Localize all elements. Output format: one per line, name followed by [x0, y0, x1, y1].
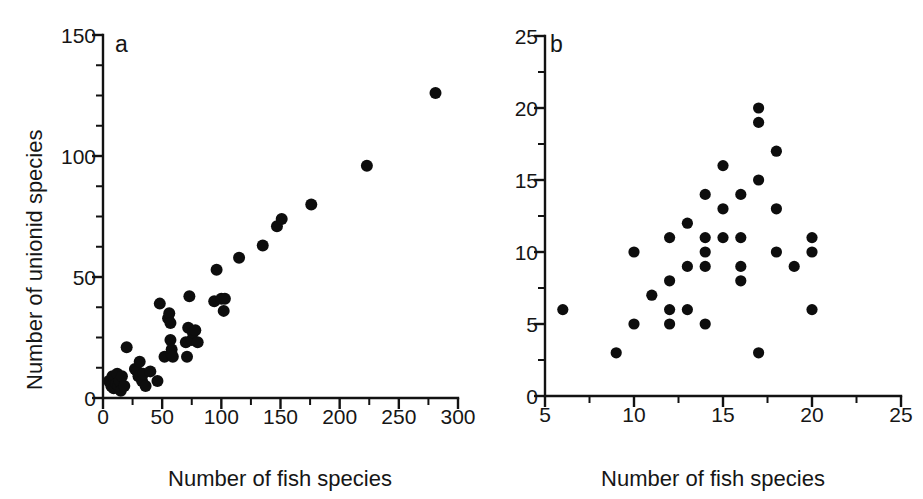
data-point	[735, 261, 746, 272]
data-point	[121, 341, 133, 353]
x-axis-tick-label: 200	[322, 406, 357, 427]
x-axis-tick-label: 250	[381, 406, 416, 427]
data-point	[305, 198, 317, 210]
figure-container: a Number of fish species Number of union…	[0, 0, 923, 499]
data-point	[717, 203, 728, 214]
data-point	[181, 351, 193, 363]
data-point	[430, 87, 442, 99]
data-point	[557, 304, 568, 315]
x-axis-tick-label: 50	[150, 406, 173, 427]
data-point	[218, 305, 230, 317]
scatter-panel-a: a Number of fish species Number of union…	[0, 0, 470, 499]
y-axis-tick-label: 15	[515, 170, 538, 191]
data-point	[806, 246, 817, 257]
y-axis-tick-label: 0	[84, 388, 96, 409]
x-axis-tick-label: 100	[204, 406, 239, 427]
panel-label-b: b	[550, 33, 563, 56]
y-axis-tick-label: 100	[61, 146, 96, 167]
x-axis-tick-label: 0	[97, 406, 109, 427]
data-point	[700, 232, 711, 243]
data-point	[735, 189, 746, 200]
y-axis-tick-label: 0	[526, 386, 538, 407]
data-point	[753, 117, 764, 128]
axis-spine	[545, 36, 901, 396]
data-point	[753, 174, 764, 185]
data-point	[753, 102, 764, 113]
data-point	[164, 317, 176, 329]
panel-a-y-axis-title: Number of unionid species	[22, 130, 48, 390]
data-point	[806, 232, 817, 243]
data-point	[735, 232, 746, 243]
data-point	[700, 261, 711, 272]
data-point	[183, 290, 195, 302]
data-point	[735, 275, 746, 286]
data-point	[806, 304, 817, 315]
data-point	[646, 290, 657, 301]
data-point	[144, 365, 156, 377]
data-point	[664, 318, 675, 329]
x-axis-tick-label: 20	[800, 404, 823, 425]
data-point	[682, 261, 693, 272]
scatter-panel-b: b Number of fish species 051015202551015…	[460, 0, 923, 499]
data-point	[219, 293, 231, 305]
data-point	[628, 246, 639, 257]
y-axis-tick-label: 25	[515, 26, 538, 47]
data-point	[700, 189, 711, 200]
data-point	[189, 324, 201, 336]
data-point	[134, 356, 146, 368]
data-point	[211, 264, 223, 276]
x-axis-tick-label: 150	[263, 406, 298, 427]
data-point	[717, 232, 728, 243]
y-axis-tick-label: 5	[526, 314, 538, 335]
panel-label-a: a	[115, 33, 128, 56]
y-axis-tick-label: 150	[61, 25, 96, 46]
data-point	[611, 347, 622, 358]
data-point	[628, 318, 639, 329]
y-axis-tick-label: 20	[515, 98, 538, 119]
panel-b-x-axis-title: Number of fish species	[601, 466, 825, 492]
panel-a-x-axis-title: Number of fish species	[168, 466, 392, 492]
data-point	[140, 380, 152, 392]
data-point	[682, 218, 693, 229]
data-point	[151, 375, 163, 387]
data-point	[664, 275, 675, 286]
data-point	[771, 146, 782, 157]
data-point	[361, 160, 373, 172]
data-point	[700, 318, 711, 329]
data-point	[276, 213, 288, 225]
data-point	[682, 304, 693, 315]
data-point	[192, 336, 204, 348]
data-point	[771, 246, 782, 257]
x-axis-tick-label: 15	[711, 404, 734, 425]
data-point	[664, 304, 675, 315]
data-point	[771, 203, 782, 214]
data-point	[700, 246, 711, 257]
data-point	[167, 351, 179, 363]
x-axis-tick-label: 5	[539, 404, 551, 425]
data-point	[753, 347, 764, 358]
data-point	[154, 298, 166, 310]
y-axis-tick-label: 10	[515, 242, 538, 263]
y-axis-tick-label: 50	[73, 267, 96, 288]
data-point	[789, 261, 800, 272]
data-point	[257, 240, 269, 252]
data-point	[233, 252, 245, 264]
data-point	[664, 232, 675, 243]
x-axis-tick-label: 25	[889, 404, 912, 425]
x-axis-tick-label: 10	[622, 404, 645, 425]
data-point	[118, 380, 130, 392]
data-point	[717, 160, 728, 171]
